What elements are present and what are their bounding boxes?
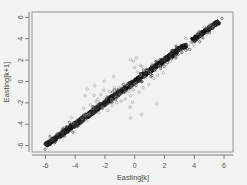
x-axis-title: Easting[k] [117, 173, 149, 182]
y-tick-label: -6 [17, 142, 24, 148]
x-tick-label: 4 [192, 162, 196, 169]
y-tick-label: 0 [17, 79, 24, 83]
x-tick-label: -2 [102, 162, 108, 169]
y-tick-label: -2 [17, 100, 24, 106]
scatter-plot-figure: -6-4-20246-6-4-20246 Easting[k] Easting[… [0, 0, 247, 185]
y-tick-label: -4 [18, 121, 25, 127]
y-tick-label: 2 [18, 58, 25, 62]
plot-canvas: -6-4-20246-6-4-20246 Easting[k] Easting[… [0, 0, 247, 185]
x-tick-label: 2 [163, 162, 167, 169]
screenshot-root: -6-4-20246-6-4-20246 Easting[k] Easting[… [0, 0, 247, 185]
x-tick-label: -4 [72, 162, 78, 169]
x-tick-label: -6 [42, 162, 48, 169]
y-tick-label: 4 [17, 37, 24, 41]
y-tick-label: 6 [18, 15, 25, 19]
x-tick-label: 6 [222, 162, 226, 169]
y-axis-title: Easting[k+1] [2, 62, 11, 102]
x-tick-label: 0 [133, 162, 137, 169]
